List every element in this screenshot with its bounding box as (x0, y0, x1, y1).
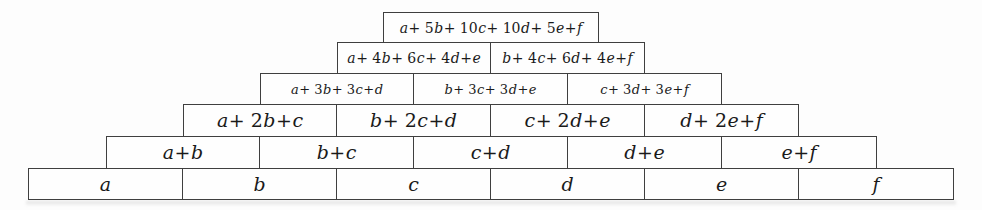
pyramid-cell-r5-c5: e + f (721, 136, 877, 169)
sum-pyramid-figure: a + 5b + 10c + 10d + 5e + fa + 4b + 6c +… (0, 0, 982, 210)
pyramid-cell-r6-c2: b (182, 168, 337, 200)
pyramid-cell-r6-c6: f (798, 168, 954, 200)
pyramid-cell-r2-c2: b + 4c + 6d + 4e + f (490, 42, 645, 74)
pyramid-cell-r4-c3: c + 2d + e (490, 104, 645, 137)
pyramid-cell-r4-c2: b + 2c + d (336, 104, 491, 137)
pyramid-cell-r5-c1: a + b (106, 136, 260, 169)
pyramid-cell-r5-c2: b + c (259, 136, 414, 169)
pyramid-cell-r2-c1: a + 4b + 6c + 4d + e (337, 42, 491, 74)
pyramid-cell-r4-c1: a + 2b + c (183, 104, 337, 137)
pyramid-cell-r3-c2: b + 3c + 3d + e (413, 73, 568, 105)
pyramid-cell-r4-c4: d + 2e + f (644, 104, 799, 137)
pyramid-cell-r5-c4: d + e (567, 136, 722, 169)
pyramid-cell-r3-c1: a + 3b + 3c + d (260, 73, 414, 105)
pyramid-cell-r1-c1: a + 5b + 10c + 10d + 5e + f (383, 12, 599, 43)
pyramid-cell-r3-c3: c + 3d + 3e + f (567, 73, 722, 105)
pyramid-cell-r6-c5: e (644, 168, 799, 200)
pyramid-cell-r6-c3: c (336, 168, 491, 200)
pyramid-cell-r6-c4: d (490, 168, 645, 200)
pyramid-cell-r5-c3: c + d (413, 136, 568, 169)
scan-shadow-artifact (26, 201, 956, 206)
pyramid-cell-r6-c1: a (28, 168, 183, 200)
